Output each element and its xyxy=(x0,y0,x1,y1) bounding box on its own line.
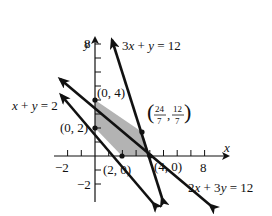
equation-label-3x-plus-y: 3x + y = 12 xyxy=(122,38,181,53)
equation-label-x-plus-y: x + y = 2 xyxy=(11,98,58,113)
point-label-24-7-12-7: ( 24 7 , 12 7 ) xyxy=(147,99,191,126)
point-label-0-4: (0, 4) xyxy=(97,85,125,100)
svg-text:(: ( xyxy=(147,99,154,124)
x-axis-label: x xyxy=(223,140,230,155)
point-label-0-2: (0, 2) xyxy=(60,120,88,135)
svg-text:7: 7 xyxy=(157,116,162,126)
tick-label-x-8: 8 xyxy=(200,160,207,175)
equation-label-2x-plus-3y: 2x + 3y = 12 xyxy=(188,180,253,195)
svg-text:): ) xyxy=(184,99,191,124)
point-label-4-0: (4, 0) xyxy=(154,159,182,174)
svg-text:12: 12 xyxy=(173,104,182,114)
tick-label-y-8-visible: 8 xyxy=(84,36,91,51)
tick-label-x-neg2: −2 xyxy=(55,160,69,175)
svg-text:24: 24 xyxy=(155,104,165,114)
linear-programming-graph: y x 8 8 −2 −2 8 (0, 4) (0, 2) (2, 0) (4,… xyxy=(0,0,272,216)
tick-label-y-neg2: −2 xyxy=(77,177,91,192)
svg-text:,: , xyxy=(167,107,170,122)
point-label-2-0: (2, 0) xyxy=(103,162,131,177)
svg-text:7: 7 xyxy=(175,116,180,126)
x-ticks xyxy=(68,150,205,156)
